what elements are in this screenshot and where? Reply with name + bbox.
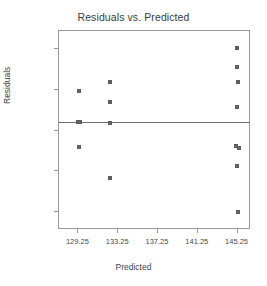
- x-axis-label: Predicted: [0, 262, 267, 272]
- x-tick-mark: [237, 229, 238, 233]
- x-tick-label: 137.25: [146, 237, 169, 246]
- x-tick-mark: [157, 229, 158, 233]
- x-tick-label: 141.25: [185, 237, 208, 246]
- x-axis-ticks: 129.25133.25137.25141.25145.25: [0, 0, 267, 286]
- residuals-scatter-chart: Residuals vs. Predicted 6.753-0.75-4.5-8…: [0, 0, 267, 286]
- x-tick-mark: [77, 229, 78, 233]
- x-tick-mark: [197, 229, 198, 233]
- y-axis-label: Residuals: [2, 67, 12, 104]
- x-tick-label: 145.25: [225, 237, 248, 246]
- x-tick-mark: [117, 229, 118, 233]
- x-tick-label: 129.25: [66, 237, 89, 246]
- x-tick-label: 133.25: [106, 237, 129, 246]
